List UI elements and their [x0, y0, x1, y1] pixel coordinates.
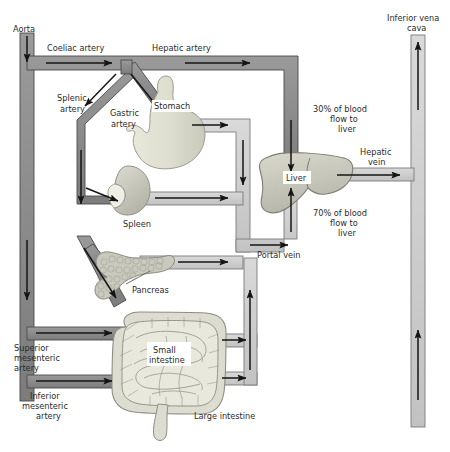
label-hepatic-vein-line1: Hepatic — [360, 147, 391, 157]
label-small-intestine-line1: Small — [153, 345, 176, 355]
label-ima-line1: Inferior — [30, 391, 60, 401]
label-sma-line2: mesenteric — [14, 353, 60, 363]
label-coeliac-artery: Coeliac artery — [47, 43, 104, 53]
label-ivc-line1: Inferior vena — [387, 13, 439, 23]
label-flow30-line2: flow to — [330, 114, 358, 124]
label-flow70-line2: flow to — [330, 218, 358, 228]
label-splenic-artery-line1: Splenic — [57, 93, 87, 103]
label-ima-line3: artery — [36, 411, 61, 421]
label-flow70-line1: 70% of blood — [313, 208, 367, 218]
label-spleen: Spleen — [123, 219, 151, 229]
label-ivc-line2: cava — [407, 23, 426, 33]
label-flow30-line1: 30% of blood — [313, 104, 367, 114]
label-small-intestine-group: Small intestine — [147, 342, 191, 366]
diagram-canvas: Aorta Coeliac artery Hepatic artery Sple… — [0, 0, 450, 452]
label-liver-group: Liver — [283, 171, 311, 184]
label-stomach: Stomach — [154, 101, 190, 111]
label-sma-line1: Superior — [14, 343, 49, 353]
label-large-intestine: Large intestine — [194, 411, 255, 421]
vessel-coeliac-trunk — [121, 60, 132, 74]
label-gastric-artery-line2: artery — [111, 119, 136, 129]
label-ima-line2: mesenteric — [22, 401, 68, 411]
label-sma-line3: artery — [14, 363, 39, 373]
label-pancreas: Pancreas — [132, 285, 169, 295]
label-stomach-group: Stomach — [152, 100, 196, 112]
label-flow70-line3: liver — [338, 228, 356, 238]
label-liver: Liver — [286, 173, 307, 183]
label-aorta: Aorta — [13, 24, 35, 34]
label-small-intestine-line2: intestine — [149, 355, 185, 365]
label-flow30-line3: liver — [338, 124, 356, 134]
label-gastric-artery-line1: Gastric — [110, 108, 139, 118]
label-hepatic-vein-line2: vein — [368, 157, 385, 167]
label-splenic-artery-line2: artery — [60, 104, 85, 114]
label-hepatic-artery: Hepatic artery — [152, 43, 211, 53]
label-portal-vein: Portal vein — [257, 250, 300, 260]
